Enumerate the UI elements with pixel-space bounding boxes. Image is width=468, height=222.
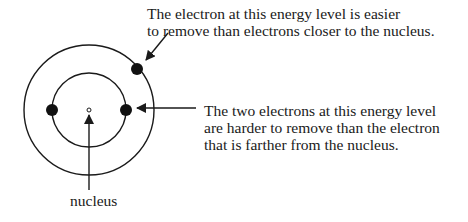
outer-electron-caption: The electron at this energy level is eas…: [147, 5, 435, 39]
outer-caption-line-1: The electron at this energy level is eas…: [147, 5, 435, 22]
nucleus-dot: [87, 108, 91, 112]
nucleus-label: nucleus: [70, 192, 117, 209]
inner-caption-line-1: The two electrons at this energy level: [204, 102, 440, 119]
inner-electrons-caption: The two electrons at this energy level a…: [204, 102, 440, 153]
outer-caption-line-2: to remove than electrons closer to the n…: [147, 22, 435, 39]
inner-electron-left: [46, 104, 58, 116]
inner-caption-line-3: that is farther from the nucleus.: [204, 136, 440, 153]
outer-electron: [131, 63, 143, 75]
atom-diagram: The electron at this energy level is eas…: [0, 0, 468, 222]
inner-electron-right: [120, 104, 132, 116]
inner-caption-line-2: are harder to remove than the electron: [204, 119, 440, 136]
